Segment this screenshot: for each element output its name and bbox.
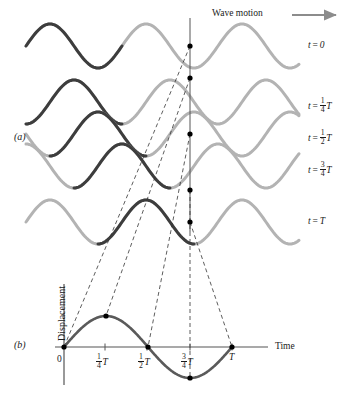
displacement-point <box>229 344 234 349</box>
wave-snapshot-group <box>26 24 299 244</box>
figure-canvas <box>0 0 347 395</box>
snapshot-time-label: t = T <box>308 217 325 227</box>
displacement-point <box>103 313 108 318</box>
connector-dashed-line <box>190 222 232 347</box>
displacement-point <box>145 344 150 349</box>
particle-dot <box>187 219 192 224</box>
wave-curve-light <box>26 112 299 156</box>
x-axis-tick-label: 12T <box>138 353 150 370</box>
wave-curve-light <box>26 80 299 124</box>
wave-curve-dark <box>98 200 194 244</box>
particle-dot <box>187 187 192 192</box>
panel-a-tag: (a) <box>14 132 26 142</box>
wave-curve-light <box>26 200 299 244</box>
displacement-point <box>61 344 66 349</box>
x-axis-title: Time <box>275 342 295 352</box>
snapshot-time-label: t = 14T <box>308 97 332 114</box>
wave-curve-light <box>26 144 299 188</box>
particle-dot <box>187 75 192 80</box>
wave-motion-figure: (a) (b) Wave motion Displacement Time 0 … <box>0 0 347 395</box>
panel-b-tag: (b) <box>14 340 26 350</box>
connector-dashed-line <box>64 46 190 347</box>
snapshot-time-label: t = 34T <box>308 161 332 178</box>
x-axis-tick-label: 34T <box>181 353 193 370</box>
x-axis-tick-label: 14T <box>96 353 108 370</box>
snapshot-time-label: t = 12T <box>308 129 332 146</box>
particle-dot <box>187 131 192 136</box>
wave-curve-light <box>26 24 299 68</box>
y-axis-title: Displacement <box>56 286 67 341</box>
dashed-connector-group <box>64 46 232 378</box>
origin-label: 0 <box>57 355 62 365</box>
panel-b-axes <box>55 284 268 385</box>
displacement-point <box>187 375 192 380</box>
x-axis-tick-label: T <box>229 353 234 363</box>
wave-motion-label: Wave motion <box>212 9 263 19</box>
particle-dot <box>187 43 192 48</box>
snapshot-time-label: t = 0 <box>308 41 325 51</box>
wave-curve-dark <box>26 24 122 68</box>
